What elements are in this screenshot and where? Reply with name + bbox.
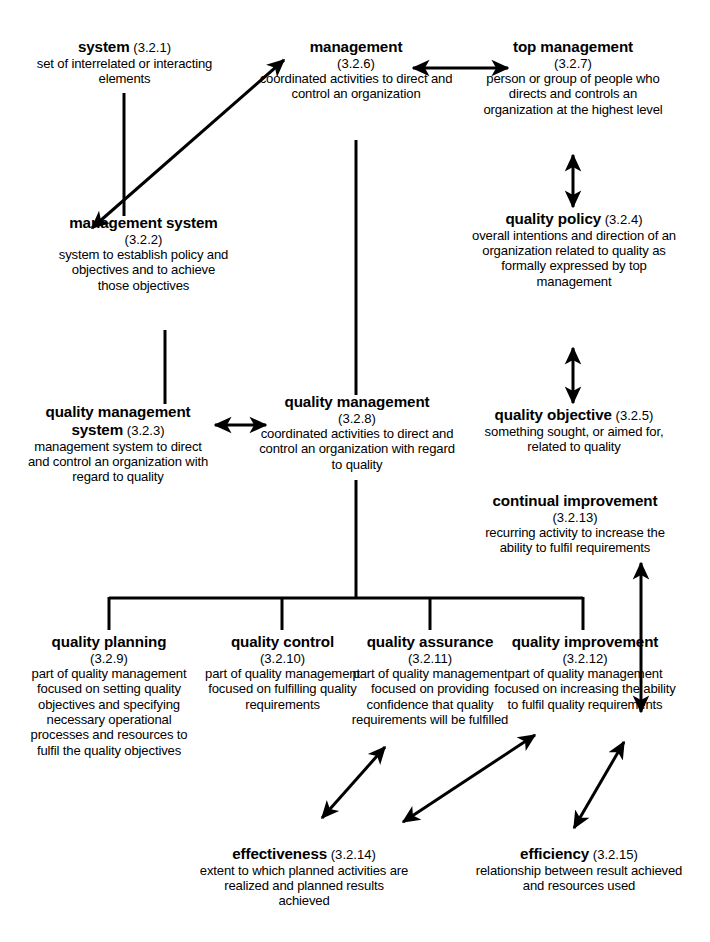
node-quality-management-ref: (3.2.8) bbox=[256, 411, 458, 426]
node-efficiency-ref: (3.2.15) bbox=[593, 847, 638, 862]
node-quality-improvement-ref: (3.2.12) bbox=[494, 651, 676, 666]
node-system-ref: (3.2.1) bbox=[133, 40, 171, 55]
node-management-system-heading: management system (3.2.2) bbox=[56, 214, 231, 247]
node-quality-policy: quality policy (3.2.4) overall intention… bbox=[470, 210, 678, 289]
node-efficiency-heading: efficiency (3.2.15) bbox=[470, 845, 688, 863]
node-top-management: top management (3.2.7) person or group o… bbox=[473, 38, 673, 117]
node-quality-assurance: quality assurance (3.2.11) part of quali… bbox=[345, 633, 515, 727]
node-quality-planning-ref: (3.2.9) bbox=[25, 651, 193, 666]
node-quality-management-system-heading: quality management system (3.2.3) bbox=[23, 403, 213, 439]
node-effectiveness-heading: effectiveness (3.2.14) bbox=[198, 845, 410, 863]
node-quality-objective-term: quality objective bbox=[495, 406, 612, 423]
node-efficiency-term: efficiency bbox=[520, 845, 589, 862]
node-quality-policy-heading: quality policy (3.2.4) bbox=[470, 210, 678, 228]
node-management-ref: (3.2.6) bbox=[258, 56, 454, 71]
node-top-management-ref: (3.2.7) bbox=[473, 56, 673, 71]
node-effectiveness-definition: extent to which planned activities are r… bbox=[200, 863, 408, 909]
connector-quality-assurance-to-effectiveness bbox=[322, 747, 385, 818]
node-quality-assurance-ref: (3.2.11) bbox=[345, 651, 515, 666]
node-top-management-definition: person or group of people who directs an… bbox=[483, 71, 662, 117]
node-management-system: management system (3.2.2) system to esta… bbox=[56, 214, 231, 293]
node-effectiveness: effectiveness (3.2.14) extent to which p… bbox=[198, 845, 410, 909]
node-quality-management-system-ref: (3.2.3) bbox=[127, 423, 165, 438]
connector-quality-improvement-to-effectiveness bbox=[403, 735, 535, 822]
node-quality-objective-heading: quality objective (3.2.5) bbox=[476, 406, 672, 424]
node-quality-management-term: quality management bbox=[256, 393, 458, 411]
node-system-definition: set of interrelated or interacting eleme… bbox=[37, 56, 212, 86]
node-efficiency: efficiency (3.2.15) relationship between… bbox=[470, 845, 688, 893]
node-system: system (3.2.1) set of interrelated or in… bbox=[22, 38, 227, 86]
node-effectiveness-term: effectiveness bbox=[232, 845, 327, 862]
node-management-system-term: management system bbox=[69, 214, 218, 231]
node-quality-policy-ref: (3.2.4) bbox=[605, 212, 643, 227]
node-management-definition: coordinated activities to direct and con… bbox=[260, 71, 453, 101]
node-quality-policy-term: quality policy bbox=[505, 210, 601, 227]
node-quality-objective: quality objective (3.2.5) something soug… bbox=[476, 406, 672, 454]
node-management-system-ref: (3.2.2) bbox=[125, 232, 163, 247]
node-system-heading: system (3.2.1) bbox=[22, 38, 227, 56]
node-quality-control-definition: part of quality management focused on fu… bbox=[205, 666, 360, 712]
node-quality-control: quality control (3.2.10) part of quality… bbox=[199, 633, 366, 712]
node-quality-improvement: quality improvement (3.2.12) part of qua… bbox=[494, 633, 676, 712]
connector-quality-improvement-to-efficiency bbox=[574, 742, 624, 828]
node-continual-improvement-term: continual improvement bbox=[469, 492, 681, 510]
node-quality-policy-definition: overall intentions and direction of an o… bbox=[472, 228, 676, 289]
node-management-system-definition: system to establish policy and objective… bbox=[59, 247, 228, 293]
node-efficiency-definition: relationship between result achieved and… bbox=[476, 863, 682, 893]
node-quality-planning: quality planning (3.2.9) part of quality… bbox=[25, 633, 193, 758]
node-quality-control-ref: (3.2.10) bbox=[199, 651, 366, 666]
node-effectiveness-ref: (3.2.14) bbox=[331, 847, 376, 862]
node-quality-management-definition: coordinated activities to direct and con… bbox=[259, 426, 455, 472]
node-quality-objective-ref: (3.2.5) bbox=[616, 408, 654, 423]
node-quality-planning-definition: part of quality management focused on se… bbox=[31, 666, 188, 758]
node-continual-improvement-definition: recurring activity to increase the abili… bbox=[485, 525, 665, 555]
node-quality-assurance-definition: part of quality management focused on pr… bbox=[352, 666, 508, 727]
node-system-term: system bbox=[78, 38, 130, 55]
node-quality-management-system-term: quality management system bbox=[45, 403, 190, 438]
node-quality-improvement-definition: part of quality management focused on in… bbox=[494, 666, 675, 712]
node-management: management (3.2.6) coordinated activitie… bbox=[258, 38, 454, 102]
node-quality-assurance-term: quality assurance bbox=[345, 633, 515, 651]
node-continual-improvement-ref: (3.2.13) bbox=[469, 510, 681, 525]
node-quality-control-term: quality control bbox=[199, 633, 366, 651]
node-continual-improvement: continual improvement (3.2.13) recurring… bbox=[469, 492, 681, 556]
node-quality-improvement-term: quality improvement bbox=[494, 633, 676, 651]
node-quality-management-system: quality management system (3.2.3) manage… bbox=[23, 403, 213, 485]
node-quality-management-system-definition: management system to direct and control … bbox=[28, 439, 208, 485]
node-management-term: management bbox=[258, 38, 454, 56]
node-quality-objective-definition: something sought, or aimed for, related … bbox=[485, 424, 664, 454]
node-top-management-term: top management bbox=[473, 38, 673, 56]
node-quality-management: quality management (3.2.8) coordinated a… bbox=[256, 393, 458, 472]
concept-diagram-canvas: system (3.2.1) set of interrelated or in… bbox=[0, 0, 710, 942]
node-quality-planning-term: quality planning bbox=[25, 633, 193, 651]
